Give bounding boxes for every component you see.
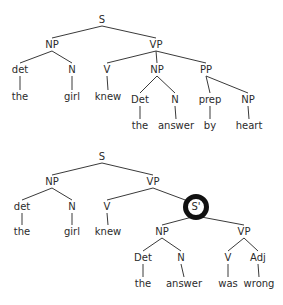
tree-edge (248, 106, 249, 119)
tree-node-np1: NP (45, 39, 59, 50)
tree-node-n1: N (68, 201, 75, 212)
tree-node-det2: Det (131, 94, 149, 105)
tree-node-girl1: girl (64, 226, 80, 237)
tree-edge (20, 51, 52, 63)
tree-node-the1: the (12, 91, 28, 102)
tree-node-the2: the (135, 278, 151, 289)
tree-node-vp1: VP (150, 39, 163, 50)
tree-edge (107, 188, 153, 200)
tree-edge (162, 238, 181, 251)
tree-edges (20, 26, 259, 277)
tree-edge (140, 76, 157, 93)
tree-edge (107, 51, 156, 63)
tree-edge (107, 213, 108, 225)
tree-node-the1: the (14, 226, 30, 237)
tree-edge (22, 188, 52, 200)
tree-node-heart1: heart (236, 120, 263, 131)
tree-node-n2: N (171, 94, 178, 105)
tree-node-n1: N (68, 64, 75, 75)
tree-node-s: S (99, 151, 105, 162)
tree-edge (175, 106, 176, 119)
tree-edge (156, 51, 206, 63)
tree-edge (157, 76, 175, 93)
tree-edge (156, 51, 157, 63)
tree-node-sbar: S' (191, 201, 200, 212)
tree-node-np1: NP (45, 176, 59, 187)
tree-node-the2: the (132, 120, 148, 131)
tree-edge (52, 51, 72, 63)
tree-node-knew1: knew (95, 91, 121, 102)
tree-labels: SNPVPdetNthegirlVknewNPPPDetNtheanswerpr… (12, 14, 275, 289)
tree-node-vp2: VP (238, 226, 251, 237)
tree-node-np2: NP (155, 226, 169, 237)
tree-node-answer2: answer (158, 120, 195, 131)
tree-edge (52, 188, 72, 200)
tree-edge (52, 26, 102, 38)
tree-node-pp1: PP (200, 64, 212, 75)
tree-node-v1: V (104, 64, 111, 75)
tree-node-n2: N (177, 252, 184, 263)
tree-edge (206, 76, 248, 93)
syntax-trees-canvas: SNPVPdetNthegirlVknewNPPPDetNtheanswerpr… (0, 0, 283, 305)
tree-edge (102, 26, 156, 38)
tree-node-prep1: prep (199, 94, 222, 105)
tree-node-np2: NP (150, 64, 164, 75)
tree-edge (102, 163, 153, 175)
tree-edge (52, 163, 102, 175)
tree-edge (181, 264, 184, 277)
tree-node-det1: det (12, 64, 29, 75)
tree-edge (228, 238, 244, 251)
syntax-tree-diagram: SNPVPdetNthegirlVknewNPPPDetNtheanswerpr… (0, 0, 283, 305)
tree-node-np3: NP (241, 94, 255, 105)
tree-node-det2: Det (134, 252, 152, 263)
tree-edge (206, 76, 210, 93)
tree-node-answer2: answer (166, 278, 203, 289)
tree-edge (107, 76, 108, 90)
tree-node-adj2: Adj (250, 252, 266, 263)
tree-edge (143, 238, 162, 251)
tree-node-wrong2: wrong (244, 278, 275, 289)
tree-node-knew1: knew (95, 226, 121, 237)
tree-edge (258, 264, 259, 277)
tree-node-v2: V (225, 252, 232, 263)
tree-edge (244, 238, 258, 251)
tree-node-girl1: girl (64, 91, 80, 102)
tree-node-det1: det (14, 201, 31, 212)
tree-node-vp1: VP (147, 176, 160, 187)
tree-node-v1: V (104, 201, 111, 212)
tree-node-by1: by (204, 120, 216, 131)
tree-node-was2: was (218, 278, 238, 289)
tree-node-s: S (99, 14, 105, 25)
